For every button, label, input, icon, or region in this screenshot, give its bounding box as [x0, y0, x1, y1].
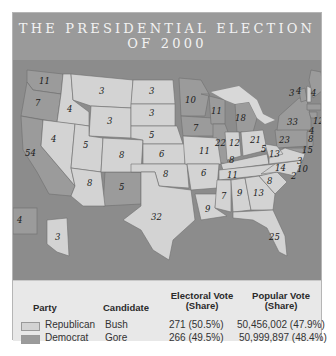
- svg-text:8: 8: [119, 150, 125, 160]
- svg-text:4: 4: [66, 104, 72, 114]
- header-party: Party: [33, 303, 57, 313]
- svg-text:9: 9: [205, 204, 211, 214]
- svg-text:12: 12: [229, 138, 240, 148]
- us-map-svg: 11 7 54 4 4 3 3 5 8 8 5 3 3 5 6 8 32 10 …: [13, 60, 321, 280]
- header-electoral-line2: (Share): [167, 301, 237, 311]
- svg-text:13: 13: [269, 149, 280, 159]
- svg-text:11: 11: [211, 106, 222, 116]
- svg-text:6: 6: [201, 168, 207, 178]
- election-map-figure: THE PRESIDENTIAL ELECTION OF 2000: [12, 12, 322, 340]
- svg-text:8: 8: [229, 155, 235, 165]
- democrat-swatch: [21, 335, 40, 344]
- svg-text:5: 5: [119, 182, 124, 192]
- svg-text:10: 10: [185, 95, 196, 105]
- title-band: THE PRESIDENTIAL ELECTION OF 2000: [13, 13, 321, 60]
- svg-text:8: 8: [87, 178, 93, 188]
- svg-text:2: 2: [290, 171, 296, 181]
- svg-text:5: 5: [83, 140, 88, 150]
- svg-text:11: 11: [199, 146, 210, 156]
- svg-text:33: 33: [287, 117, 298, 127]
- svg-text:7: 7: [193, 123, 199, 133]
- svg-text:54: 54: [25, 148, 36, 158]
- svg-text:13: 13: [253, 188, 264, 198]
- svg-text:11: 11: [39, 76, 50, 86]
- svg-text:4: 4: [16, 215, 22, 225]
- header-electoral: Electoral Vote (Share): [167, 291, 237, 311]
- party-name: Democrat: [45, 332, 88, 344]
- electoral-vote: 271 (50.5%): [169, 319, 223, 331]
- svg-text:23: 23: [278, 135, 290, 145]
- header-popular-line2: (Share): [241, 301, 321, 311]
- svg-text:5: 5: [149, 130, 154, 140]
- svg-text:9: 9: [237, 188, 243, 198]
- svg-text:22: 22: [214, 138, 226, 148]
- svg-text:3: 3: [99, 86, 104, 96]
- svg-text:21: 21: [249, 135, 261, 145]
- svg-text:8: 8: [308, 134, 314, 144]
- figure-title: THE PRESIDENTIAL ELECTION OF 2000: [13, 21, 321, 51]
- popular-vote: 50,456,002 (47.9%): [237, 319, 325, 331]
- header-popular: Popular Vote (Share): [241, 291, 321, 311]
- svg-text:18: 18: [235, 113, 246, 123]
- svg-text:5: 5: [261, 144, 266, 154]
- us-map: 11 7 54 4 4 3 3 5 8 8 5 3 3 5 6 8 32 10 …: [13, 60, 321, 280]
- svg-text:3: 3: [149, 108, 154, 118]
- svg-text:4: 4: [295, 86, 301, 96]
- svg-text:25: 25: [268, 232, 280, 242]
- svg-text:14: 14: [275, 163, 286, 173]
- title-line-1: THE PRESIDENTIAL ELECTION: [13, 21, 321, 36]
- svg-text:4: 4: [310, 88, 316, 98]
- svg-text:15: 15: [302, 145, 313, 155]
- candidate-name: Gore: [105, 332, 127, 344]
- svg-text:11: 11: [227, 170, 238, 180]
- svg-text:3: 3: [55, 232, 60, 242]
- legend-table: Party Candidate Electoral Vote (Share) P…: [13, 280, 321, 341]
- candidate-name: Bush: [105, 319, 128, 331]
- svg-text:3: 3: [149, 86, 154, 96]
- svg-text:8: 8: [267, 176, 273, 186]
- svg-text:7: 7: [221, 191, 227, 201]
- party-name: Republican: [45, 319, 95, 331]
- svg-text:12: 12: [313, 116, 321, 126]
- svg-text:3: 3: [107, 116, 112, 126]
- svg-text:10: 10: [297, 164, 308, 174]
- svg-text:7: 7: [35, 98, 41, 108]
- title-line-2: OF 2000: [13, 36, 321, 51]
- republican-swatch: [21, 322, 40, 331]
- svg-text:4: 4: [50, 134, 56, 144]
- svg-text:32: 32: [151, 212, 162, 222]
- svg-text:6: 6: [159, 149, 165, 159]
- header-candidate: Candidate: [103, 303, 149, 313]
- state-MA: [307, 104, 321, 110]
- svg-text:8: 8: [163, 169, 169, 179]
- popular-vote: 50,999,897 (48.4%): [239, 332, 327, 344]
- svg-text:3: 3: [289, 88, 294, 98]
- electoral-vote: 266 (49.5%): [169, 332, 223, 344]
